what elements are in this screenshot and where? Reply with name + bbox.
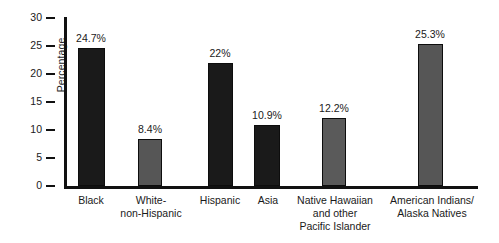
bar-value-label: 8.4%: [120, 123, 180, 135]
bar-chart: Percentage 051015202530 24.7%8.4%22%10.9…: [0, 0, 499, 243]
bar-value-label: 10.9%: [237, 109, 297, 121]
bar: [418, 44, 443, 186]
bar-value-label: 12.2%: [304, 102, 364, 114]
bar: [254, 125, 280, 186]
bar-value-label: 22%: [190, 47, 250, 59]
x-axis-category-label: White- non-Hispanic: [110, 194, 192, 220]
bar: [78, 48, 105, 186]
bar-value-label: 24.7%: [61, 32, 121, 44]
bar: [138, 139, 162, 186]
bar: [322, 118, 346, 186]
x-axis-category-label: Native Hawaiian and other Pacific Island…: [288, 194, 382, 233]
bar-value-label: 25.3%: [400, 28, 460, 40]
bar: [208, 63, 233, 186]
x-axis-category-label: American Indians/ Alaska Natives: [384, 194, 480, 220]
